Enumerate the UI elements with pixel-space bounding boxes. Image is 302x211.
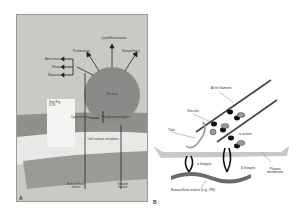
label-vinculin: Vinculin bbox=[187, 110, 199, 113]
label-growth-factors: Growth factors bbox=[113, 183, 133, 189]
label-cytoskeleton: Cytoskeleton bbox=[71, 116, 89, 119]
extracellular-matrix-fiber bbox=[171, 172, 251, 184]
panel-a-graphics bbox=[17, 15, 148, 202]
label-actin-filament: Actin filament bbox=[211, 87, 231, 90]
label-migration: Migration bbox=[29, 74, 61, 77]
label-see-fig: See Fig. 3-19 bbox=[49, 101, 61, 107]
label-plasma-membrane: Plasma membrane bbox=[267, 168, 283, 175]
label-extracellular-matrix: Extracellular matrix bbox=[63, 183, 89, 189]
label-nucleus: Nucleus bbox=[97, 93, 127, 96]
panel-b-focal-adhesion: Actin filament Vinculin Talin α actinin … bbox=[151, 60, 302, 211]
label-attachment: Attachment bbox=[29, 58, 61, 61]
label-biosynthesis: Biosynthesis bbox=[122, 50, 140, 53]
actin-filament-1 bbox=[196, 80, 271, 132]
label-soluble-messengers: Soluble messengers bbox=[101, 116, 130, 119]
label-alpha-actinin: α actinin bbox=[239, 133, 252, 136]
label-cell-surface-receptors: Cell surface receptors bbox=[77, 138, 129, 141]
label-beta-integrin: β Integrin bbox=[241, 167, 255, 170]
panel-letter-b: B bbox=[153, 199, 157, 205]
plasma-membrane bbox=[153, 146, 289, 158]
talin-shape bbox=[186, 122, 205, 148]
panel-a-signaling-diagram: Cytodifferentiation Proliferation Biosyn… bbox=[16, 14, 148, 202]
panel-letter-a: A bbox=[19, 195, 23, 201]
label-alpha-integrin: α Integrin bbox=[197, 163, 211, 166]
label-proliferation: Proliferation bbox=[73, 50, 90, 53]
label-shape: Shape bbox=[29, 66, 61, 69]
label-extracellular-matrix-fn: Extracellular matrix (e.g., FN) bbox=[171, 189, 215, 192]
label-talin: Talin bbox=[168, 129, 175, 132]
label-cytodifferentiation: Cytodifferentiation bbox=[101, 37, 125, 40]
